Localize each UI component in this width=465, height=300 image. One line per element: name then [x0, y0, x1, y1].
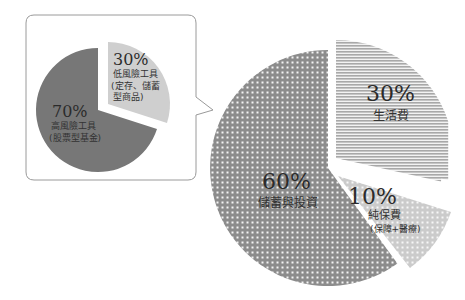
- high-risk-label: 高風險工具: [51, 120, 96, 131]
- insurance-label: 純保費: [368, 208, 401, 222]
- insurance-sublabel: (保障+醫療): [370, 223, 421, 234]
- low-risk-sub2: 型商品): [113, 91, 144, 102]
- high-risk-pct: 70%: [52, 102, 88, 121]
- savings-pct: 60%: [262, 169, 311, 194]
- low-risk-sub1: (定存、儲蓄: [111, 80, 160, 91]
- pie-chart-figure: 60% 儲蓄與投資 30% 生活費 10% 純保費 (保障+醫療) 30% 低風…: [0, 0, 465, 300]
- low-risk-pct: 30%: [113, 50, 149, 69]
- high-risk-sublabel: (股票型基金): [49, 132, 101, 143]
- savings-label: 儲蓄與投資: [258, 195, 318, 210]
- living-label: 生活費: [373, 108, 409, 123]
- living-pct: 30%: [366, 81, 415, 106]
- main-pie: [210, 40, 451, 286]
- low-risk-label: 低風險工具: [113, 68, 158, 79]
- insurance-pct: 10%: [348, 184, 397, 209]
